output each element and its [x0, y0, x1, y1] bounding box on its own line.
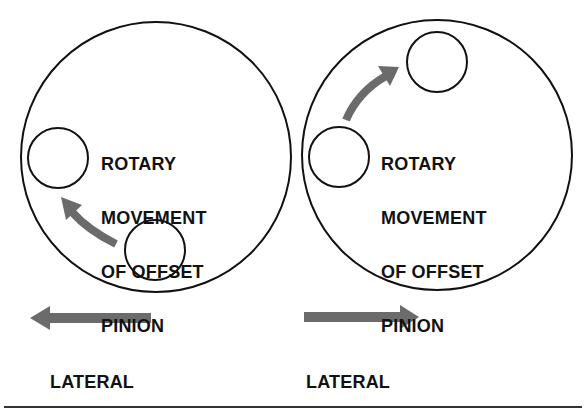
right-pinion-position-left: [309, 127, 369, 187]
right-rotary-arrow-icon: [346, 66, 399, 120]
right-pinion-position-top: [407, 32, 467, 92]
left-pinion-position-upper: [28, 128, 88, 188]
left-lateral-label: LATERAL MOVEMENT OF SLIDE: [50, 337, 156, 417]
right-lateral-label: LATERAL MOVEMENT OF SLIDE: [306, 337, 412, 417]
right-rotary-label: ROTARY MOVEMENT OF OFFSET PINION: [381, 119, 487, 353]
left-rotary-label: ROTARY MOVEMENT OF OFFSET PINION: [101, 119, 207, 353]
